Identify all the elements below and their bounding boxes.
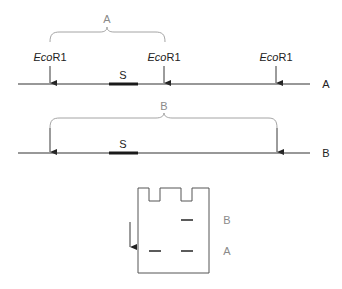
ecor1-site-2-label: EcoR1 — [147, 51, 180, 63]
row-label-a: A — [322, 78, 330, 90]
brace-a-label: A — [103, 13, 111, 25]
enzyme-rest: R1 — [278, 51, 292, 63]
map-a: A EcoR1 EcoR1 EcoR1 S A — [18, 13, 330, 90]
enzyme-italic: Eco — [259, 51, 278, 63]
enzyme-rest: R1 — [166, 51, 180, 63]
brace-b — [50, 113, 277, 128]
restriction-map-diagram: A EcoR1 EcoR1 EcoR1 S A B S B — [0, 0, 342, 289]
brace-b-label: B — [160, 100, 167, 112]
enzyme-italic: Eco — [33, 51, 52, 63]
gel-band-label-b: B — [223, 214, 230, 226]
segment-s-label-a: S — [119, 69, 126, 81]
ecor1-site-3-label: EcoR1 — [259, 51, 292, 63]
gel-band-label-a: A — [223, 245, 231, 257]
gel-outline — [138, 188, 209, 273]
row-label-b: B — [322, 147, 329, 159]
enzyme-rest: R1 — [52, 51, 66, 63]
brace-a — [50, 27, 165, 42]
gel-diagram: B A — [130, 188, 231, 273]
enzyme-italic: Eco — [147, 51, 166, 63]
segment-s-label-b: S — [119, 138, 126, 150]
map-b: B S B — [18, 100, 330, 159]
ecor1-site-1-label: EcoR1 — [33, 51, 66, 63]
